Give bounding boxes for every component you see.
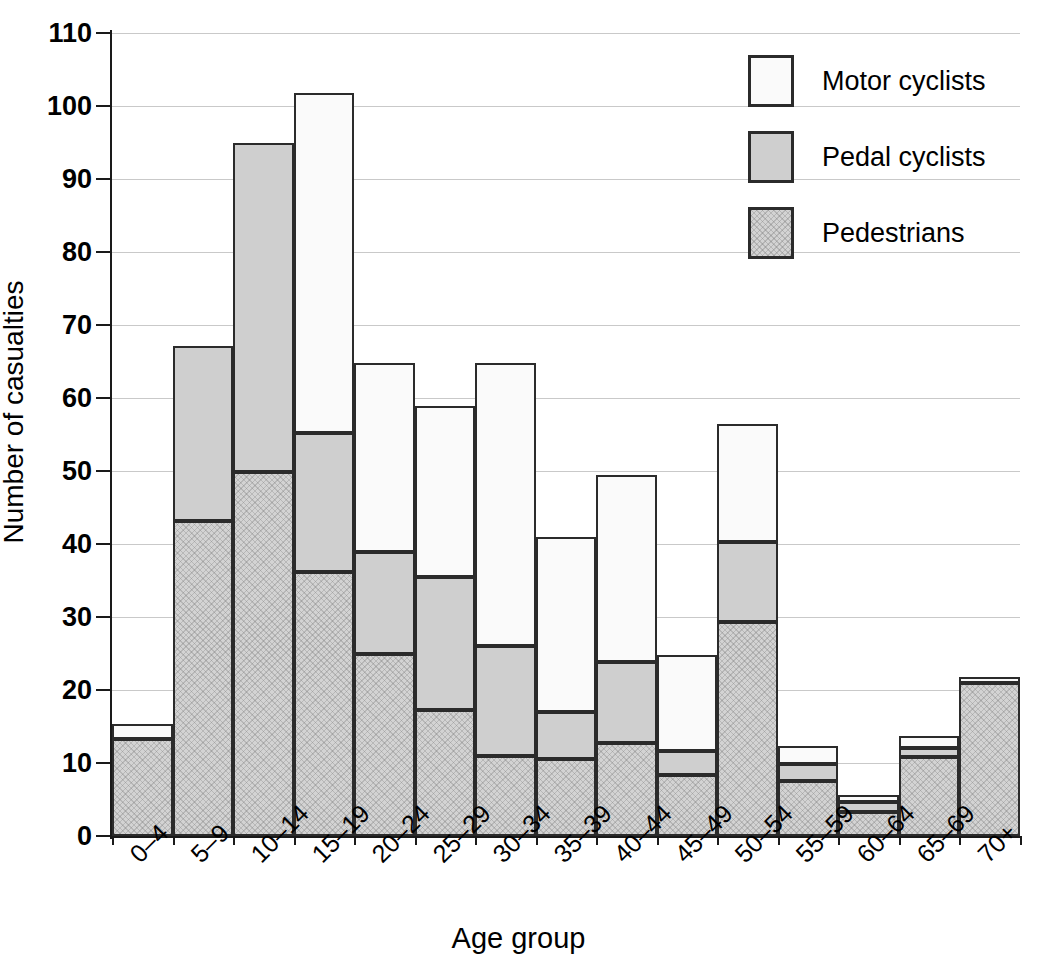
bar-0-4 — [112, 33, 173, 836]
y-axis-tick — [96, 616, 111, 618]
bar-25-29 — [415, 33, 476, 836]
bar-segment-motor — [778, 746, 839, 764]
bar-45-49 — [657, 33, 718, 836]
legend-item-pedal-cyclists: Pedal cyclists — [748, 126, 1018, 188]
legend-label-motor-cyclists: Motor cyclists — [822, 66, 986, 97]
bar-segment-pedal — [899, 748, 960, 757]
bar-40-44 — [596, 33, 657, 836]
bar-segment-pedal — [657, 751, 718, 775]
y-axis-tick — [96, 32, 111, 34]
bar-segment-motor — [294, 93, 355, 433]
bar-segment-pedal — [596, 662, 657, 743]
y-axis-tick-label: 110 — [0, 20, 92, 47]
bar-20-24 — [354, 33, 415, 836]
bar-segment-motor — [899, 736, 960, 748]
bar-segment-motor — [657, 655, 718, 751]
bar-10-14 — [233, 33, 294, 836]
bar-segment-pedal — [354, 552, 415, 654]
bar-30-34 — [475, 33, 536, 836]
bar-segment-ped — [112, 739, 173, 836]
bar-segment-ped — [233, 472, 294, 836]
y-axis-tick-label: 60 — [0, 385, 92, 412]
bar-segment-pedal — [778, 764, 839, 781]
bar-segment-ped — [173, 521, 234, 836]
bar-segment-pedal — [294, 433, 355, 572]
bar-35-39 — [536, 33, 597, 836]
bar-segment-motor — [596, 475, 657, 663]
y-axis-tick — [96, 689, 111, 691]
y-axis-tick — [96, 543, 111, 545]
bar-segment-pedal — [536, 712, 597, 759]
x-axis-tick — [112, 836, 114, 845]
y-axis-tick — [96, 105, 111, 107]
bar-segment-pedal — [233, 143, 294, 473]
legend-item-pedestrians: Pedestrians — [748, 202, 1018, 264]
x-axis-title: Age group — [0, 922, 1037, 955]
y-axis-tick — [96, 324, 111, 326]
y-axis-tick — [96, 762, 111, 764]
bar-15-19 — [294, 33, 355, 836]
y-axis-tick-label: 50 — [0, 458, 92, 485]
bar-segment-motor — [475, 363, 536, 646]
bar-segment-pedal — [415, 577, 476, 711]
bar-segment-ped — [717, 622, 778, 836]
bar-segment-motor — [112, 724, 173, 739]
bar-segment-motor — [959, 677, 1020, 683]
y-axis-tick-label: 0 — [0, 823, 92, 850]
legend-label-pedestrians: Pedestrians — [822, 218, 965, 249]
y-axis-tick-label: 90 — [0, 166, 92, 193]
bar-segment-motor — [536, 537, 597, 711]
y-axis-tick-label: 10 — [0, 750, 92, 777]
bar-segment-pedal — [173, 346, 234, 520]
y-axis-tick-label: 40 — [0, 531, 92, 558]
bar-segment-ped — [294, 572, 355, 836]
y-axis-tick — [96, 835, 111, 837]
y-axis-tick — [96, 178, 111, 180]
bar-segment-pedal — [717, 542, 778, 622]
y-axis-tick — [96, 251, 111, 253]
legend-swatch-motor-cyclists — [748, 55, 794, 107]
legend-item-motor-cyclists: Motor cyclists — [748, 50, 1018, 112]
stacked-bar-chart: Number of casualties 0102030405060708090… — [0, 0, 1037, 966]
y-axis-tick — [96, 397, 111, 399]
y-axis-tick-label: 30 — [0, 604, 92, 631]
bar-segment-motor — [717, 424, 778, 542]
bar-segment-motor — [415, 406, 476, 577]
bar-segment-motor — [354, 363, 415, 552]
bar-segment-pedal — [475, 646, 536, 756]
legend-swatch-pedal-cyclists — [748, 131, 794, 183]
legend-label-pedal-cyclists: Pedal cyclists — [822, 142, 986, 173]
bar-5-9 — [173, 33, 234, 836]
y-axis-tick-label: 80 — [0, 239, 92, 266]
chart-legend: Motor cyclists Pedal cyclists Pedestrian… — [748, 50, 1018, 278]
y-axis-tick-label: 100 — [0, 93, 92, 120]
bar-segment-motor — [838, 795, 899, 802]
chart-title-clipped — [0, 0, 1037, 16]
legend-swatch-pedestrians — [748, 207, 794, 259]
y-axis-tick-label: 70 — [0, 312, 92, 339]
y-axis-tick — [96, 470, 111, 472]
y-axis-tick-label: 20 — [0, 677, 92, 704]
